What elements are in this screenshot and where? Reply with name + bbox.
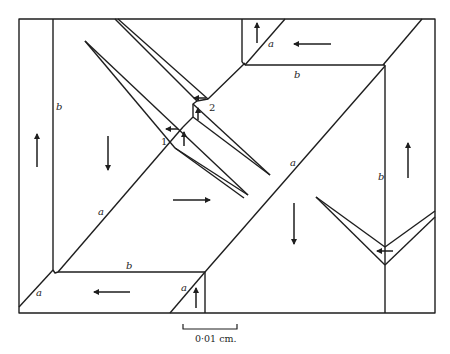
- scale-bar-label: 0·01 cm.: [195, 333, 237, 344]
- wall-a-main-lower: [58, 127, 183, 272]
- label-b-left: b: [56, 101, 62, 112]
- domain-diagram: b a a a b b b a a 1 2 0·01 cm.: [0, 0, 450, 354]
- label-a-top-right: a: [268, 38, 274, 49]
- wall-a-top-corner: [245, 19, 285, 65]
- twin-wall-continue-1: [193, 104, 270, 175]
- scale-bar: [183, 324, 237, 329]
- needle-2-lower: [175, 148, 244, 198]
- twin-wall-outer: [115, 19, 197, 101]
- label-junction-2: 2: [209, 102, 215, 113]
- label-a-main-upper: a: [290, 157, 296, 168]
- wall-a-top-right: [383, 19, 422, 65]
- outer-frame: [19, 19, 435, 313]
- needle-1-upper: [85, 41, 248, 195]
- wall-a-main-long: [205, 66, 385, 272]
- wall-junction-bottom-left: [53, 270, 58, 273]
- wall-junction-steps: [183, 63, 245, 127]
- wall-a-bottom-mid: [170, 272, 205, 313]
- needle-1-lower-b: [175, 148, 248, 195]
- label-junction-1: 1: [161, 136, 167, 147]
- label-b-right: b: [378, 171, 384, 182]
- v-wedge-left-inner: [316, 197, 385, 247]
- label-b-top: b: [294, 69, 300, 80]
- label-b-bottom: b: [126, 260, 132, 271]
- label-a-bottom-mid: a: [181, 282, 187, 293]
- label-a-bottom-left: a: [36, 287, 42, 298]
- twin-wall-inner: [118, 19, 208, 99]
- v-wedge-left-outer: [316, 197, 385, 265]
- label-a-main-lower: a: [98, 206, 104, 217]
